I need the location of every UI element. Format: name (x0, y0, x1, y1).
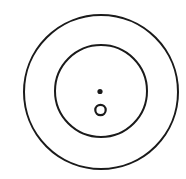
concentric-circles-diagram (0, 0, 186, 179)
center-dot (97, 89, 102, 94)
small-ring (95, 105, 105, 115)
